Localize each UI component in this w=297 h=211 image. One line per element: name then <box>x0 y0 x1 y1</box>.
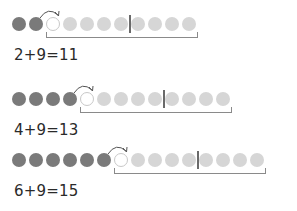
counter-dot-remaining <box>199 153 213 167</box>
counter-dot-filled <box>12 92 26 106</box>
jump-arrow-icon <box>72 81 96 95</box>
counter-dot-remaining <box>199 92 213 106</box>
counter-dot-filled <box>29 153 43 167</box>
counter-dot-remaining <box>216 92 230 106</box>
counter-dot-remaining <box>165 153 179 167</box>
counter-dot-remaining <box>182 92 196 106</box>
counter-dot-remaining <box>216 153 230 167</box>
counter-dot-remaining <box>114 92 128 106</box>
counter-dot-filled <box>80 153 94 167</box>
counter-dot-remaining <box>250 153 264 167</box>
counter-dot-remaining <box>148 153 162 167</box>
counter-dot-remaining <box>131 17 145 31</box>
counter-dot-filled <box>12 17 26 31</box>
counter-dot-remaining <box>165 17 179 31</box>
counter-dot-remaining <box>148 17 162 31</box>
jump-arrow-icon <box>38 6 62 20</box>
counter-dot-remaining <box>233 153 247 167</box>
five-divider <box>163 90 165 108</box>
counter-dot-remaining <box>80 17 94 31</box>
counter-dot-remaining <box>63 17 77 31</box>
counter-dot-remaining <box>97 92 111 106</box>
counter-dot-remaining <box>148 92 162 106</box>
counter-dot-remaining <box>182 153 196 167</box>
counter-dot-filled <box>29 92 43 106</box>
five-divider <box>129 15 131 33</box>
counter-dot-filled <box>46 153 60 167</box>
counter-dot-remaining <box>131 153 145 167</box>
counter-dot-filled <box>63 153 77 167</box>
counter-dot-filled <box>12 153 26 167</box>
equation-1: 2+9=11 <box>14 46 79 64</box>
group-bracket <box>114 168 266 174</box>
equation-2: 4+9=13 <box>14 121 79 139</box>
equation-3: 6+9=15 <box>14 182 79 200</box>
counter-dot-remaining <box>114 17 128 31</box>
counter-dot-remaining <box>97 17 111 31</box>
counter-dot-remaining <box>182 17 196 31</box>
counter-dot-filled <box>46 92 60 106</box>
counter-dot-remaining <box>131 92 145 106</box>
counter-dot-remaining <box>165 92 179 106</box>
group-bracket <box>80 107 232 113</box>
jump-arrow-icon <box>106 142 130 156</box>
group-bracket <box>46 32 198 38</box>
five-divider <box>197 151 199 169</box>
